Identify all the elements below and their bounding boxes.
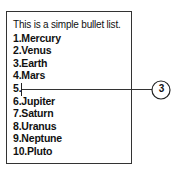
- callout-number: 3: [155, 83, 168, 94]
- callout-graphic: [0, 0, 181, 175]
